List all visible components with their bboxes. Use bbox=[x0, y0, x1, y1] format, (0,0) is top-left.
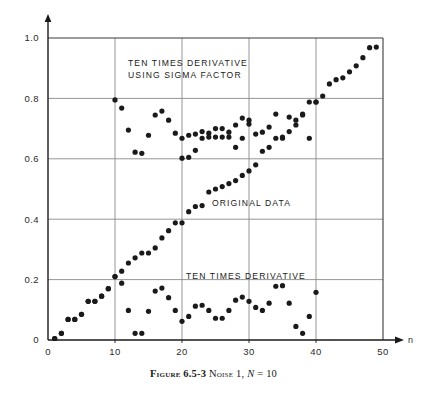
data-point bbox=[226, 308, 231, 313]
data-point bbox=[126, 308, 131, 313]
data-point bbox=[166, 228, 171, 233]
data-point bbox=[213, 134, 218, 139]
data-point bbox=[153, 245, 158, 250]
data-point bbox=[233, 298, 238, 303]
data-point bbox=[206, 134, 211, 139]
data-point bbox=[193, 204, 198, 209]
data-point bbox=[52, 336, 57, 341]
data-point bbox=[86, 299, 91, 304]
data-point bbox=[327, 81, 332, 86]
data-point bbox=[293, 324, 298, 329]
data-point bbox=[166, 118, 171, 123]
data-point bbox=[72, 317, 77, 322]
data-point bbox=[99, 294, 104, 299]
data-point bbox=[200, 303, 205, 308]
caption-equals: = bbox=[257, 368, 263, 379]
caption-figure-word: Figure bbox=[150, 368, 181, 379]
data-point bbox=[307, 136, 312, 141]
data-point bbox=[293, 122, 298, 127]
data-point bbox=[119, 281, 124, 286]
data-point bbox=[173, 220, 178, 225]
figure-container: 0102030405000.20.40.60.81.0 nTEN TIMES D… bbox=[0, 0, 427, 397]
data-point bbox=[287, 115, 292, 120]
data-point bbox=[59, 331, 64, 336]
data-point bbox=[206, 189, 211, 194]
data-point bbox=[267, 301, 272, 306]
data-point bbox=[186, 133, 191, 138]
data-point bbox=[220, 126, 225, 131]
data-point bbox=[200, 203, 205, 208]
data-point bbox=[79, 312, 84, 317]
data-point bbox=[253, 305, 258, 310]
figure-caption: Figure 6.5-3 Noise 1, N = 10 bbox=[0, 368, 427, 379]
data-point bbox=[126, 128, 131, 133]
data-point bbox=[159, 285, 164, 290]
data-point bbox=[119, 269, 124, 274]
data-point bbox=[300, 112, 305, 117]
x-axis-arrowhead bbox=[395, 337, 404, 344]
data-point bbox=[186, 155, 191, 160]
data-point bbox=[213, 316, 218, 321]
data-point bbox=[240, 115, 245, 120]
data-point bbox=[246, 118, 251, 123]
data-point bbox=[354, 63, 359, 68]
data-point bbox=[340, 75, 345, 80]
data-point bbox=[280, 283, 285, 288]
data-point bbox=[313, 290, 318, 295]
data-point bbox=[293, 118, 298, 123]
data-point bbox=[226, 130, 231, 135]
y-tick-label: 0.8 bbox=[25, 93, 39, 104]
data-point bbox=[139, 331, 144, 336]
scatter-plot: 0102030405000.20.40.60.81.0 nTEN TIMES D… bbox=[0, 0, 427, 397]
data-point bbox=[267, 145, 272, 150]
data-point bbox=[146, 309, 151, 314]
data-point bbox=[200, 129, 205, 134]
data-point bbox=[186, 314, 191, 319]
data-point bbox=[287, 129, 292, 134]
x-axis-name: n bbox=[408, 335, 413, 345]
data-point bbox=[300, 331, 305, 336]
data-point bbox=[273, 112, 278, 117]
data-point bbox=[126, 260, 131, 265]
data-point bbox=[200, 136, 205, 141]
data-point bbox=[347, 69, 352, 74]
data-point bbox=[240, 173, 245, 178]
data-point bbox=[220, 184, 225, 189]
data-point bbox=[360, 55, 365, 60]
y-tick-label: 0 bbox=[33, 334, 39, 345]
data-point bbox=[206, 308, 211, 313]
data-point bbox=[133, 150, 138, 155]
data-point bbox=[133, 255, 138, 260]
data-point bbox=[233, 122, 238, 127]
annotation-sigma-line2: USING SIGMA FACTOR bbox=[128, 70, 242, 80]
data-point bbox=[153, 288, 158, 293]
data-point bbox=[173, 131, 178, 136]
y-tick-label: 1.0 bbox=[25, 32, 39, 43]
data-point bbox=[220, 134, 225, 139]
data-point bbox=[179, 319, 184, 324]
caption-figure-number: 6.5-3 bbox=[183, 368, 206, 379]
data-point bbox=[307, 314, 312, 319]
data-point bbox=[166, 295, 171, 300]
caption-noise-number: 1, bbox=[236, 368, 244, 379]
data-point bbox=[320, 93, 325, 98]
x-tick-label: 10 bbox=[109, 346, 120, 357]
data-point bbox=[66, 317, 71, 322]
x-tick-label: 30 bbox=[243, 346, 254, 357]
caption-n-symbol: N bbox=[247, 368, 254, 379]
data-point bbox=[253, 131, 258, 136]
data-point bbox=[233, 145, 238, 150]
data-point bbox=[159, 235, 164, 240]
x-tick-label: 20 bbox=[176, 346, 187, 357]
data-point bbox=[220, 316, 225, 321]
data-point bbox=[146, 250, 151, 255]
data-point bbox=[133, 331, 138, 336]
data-point bbox=[313, 99, 318, 104]
data-point bbox=[106, 286, 111, 291]
x-tick-label: 50 bbox=[377, 346, 388, 357]
data-point bbox=[179, 220, 184, 225]
data-point bbox=[213, 186, 218, 191]
data-point bbox=[146, 133, 151, 138]
data-point bbox=[92, 299, 97, 304]
data-point bbox=[287, 301, 292, 306]
